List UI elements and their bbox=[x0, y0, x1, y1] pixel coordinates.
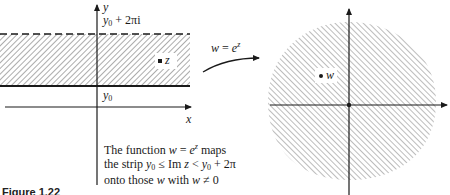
caption-text: ≠ 0 bbox=[200, 173, 219, 187]
mapping-label-w: w bbox=[211, 41, 219, 55]
caption-line-1: The function w = ez maps bbox=[104, 140, 236, 158]
strip-top-label: y0 + 2πi bbox=[103, 14, 141, 28]
strip-bottom-label-sub: 0 bbox=[108, 94, 112, 103]
strip-bottom-label: y0 bbox=[103, 89, 112, 103]
figure-number-label: Figure 1.22 bbox=[2, 186, 60, 195]
mapping-label-eq: = bbox=[219, 41, 232, 55]
caption-text: maps bbox=[198, 143, 226, 157]
point-z-label: z bbox=[165, 54, 170, 66]
caption-text: = bbox=[177, 143, 190, 157]
point-w-label: w bbox=[326, 69, 334, 81]
caption-line-3: onto those w with w ≠ 0 bbox=[104, 174, 236, 188]
strip-top-label-rest: + 2πi bbox=[112, 13, 140, 27]
caption-text: onto those bbox=[104, 173, 157, 187]
figure-caption: The function w = ez maps the strip y0 ≤ … bbox=[104, 140, 236, 188]
point-w-marker bbox=[319, 74, 323, 78]
caption-text: the strip bbox=[104, 157, 146, 171]
caption-text: The function bbox=[104, 143, 169, 157]
caption-var-w: w bbox=[192, 173, 200, 187]
left-y-axis-label: y bbox=[103, 1, 108, 13]
mapping-label-exp: z bbox=[237, 40, 240, 49]
caption-line-2: the strip y0 ≤ Im z < y0 + 2π bbox=[104, 158, 236, 175]
left-x-axis-label: x bbox=[186, 113, 191, 125]
mapping-label: w = ez bbox=[211, 41, 240, 54]
origin-dot bbox=[347, 103, 351, 107]
caption-text: with bbox=[165, 173, 192, 187]
point-z-marker bbox=[158, 59, 162, 63]
caption-text: ≤ Im bbox=[155, 157, 184, 171]
caption-text: + 2π bbox=[211, 157, 236, 171]
caption-var-w: w bbox=[169, 143, 177, 157]
right-plane bbox=[268, 9, 447, 195]
mapping-arrow bbox=[203, 58, 259, 72]
caption-text: < bbox=[189, 157, 202, 171]
caption-var-w: w bbox=[157, 173, 165, 187]
image-region-disk bbox=[268, 22, 436, 180]
